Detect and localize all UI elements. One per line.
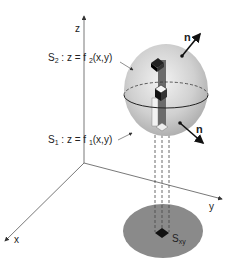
surface-s1-label: S1 : z = f 1(x,y)	[48, 135, 112, 146]
coordinate-axes	[5, 16, 222, 241]
x-axis	[5, 163, 84, 241]
y-axis-label: y	[209, 202, 214, 212]
leader-s1	[118, 133, 132, 140]
surface-s2-label: S2 : z = f 2(x,y)	[48, 53, 112, 64]
normal-label-lower: n	[196, 124, 203, 135]
y-axis	[84, 163, 222, 199]
normal-label-upper: n	[184, 32, 191, 43]
x-axis-label: x	[14, 235, 19, 245]
projection-label: Sxy	[172, 234, 186, 245]
z-axis-label: z	[75, 24, 80, 34]
